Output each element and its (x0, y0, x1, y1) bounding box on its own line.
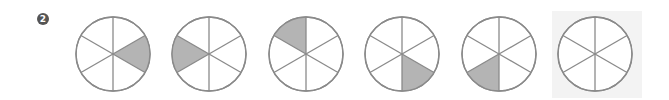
pattern-circle-2 (172, 17, 246, 91)
pattern-circle-1 (76, 17, 150, 91)
answer-circle (558, 17, 632, 91)
pattern-circle-5 (462, 17, 536, 91)
pattern-circle-3 (269, 17, 343, 91)
circle-sequence (0, 0, 669, 100)
pattern-circle-4 (365, 17, 439, 91)
